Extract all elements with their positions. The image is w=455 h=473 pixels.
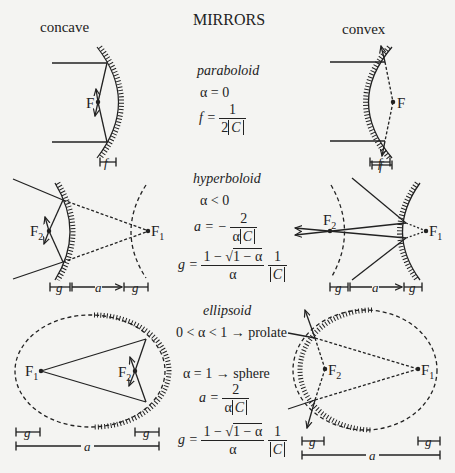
dim-a-ellipsoid-concave: a bbox=[81, 440, 94, 453]
hyperboloid-convex bbox=[295, 165, 428, 287]
dim-g-ellipsoid-convex-left: g bbox=[309, 435, 316, 448]
dim-a-hyperboloid-concave: a bbox=[95, 281, 102, 294]
focus-label-f2-hyperboloid-concave: F2 bbox=[30, 224, 43, 242]
section-title-ellipsoid: ellipsoid bbox=[203, 304, 251, 318]
section-title-hyperboloid: hyperboloid bbox=[193, 172, 261, 186]
hyperboloid-condition: α < 0 bbox=[200, 194, 229, 208]
dim-g-ellipsoid-concave-right: g bbox=[143, 426, 150, 439]
ellipsoid-condition-sphere: α = 1 → sphere bbox=[183, 367, 270, 381]
section-title-paraboloid: paraboloid bbox=[197, 64, 259, 78]
dim-g-hyperboloid-concave-left: g bbox=[56, 281, 63, 294]
focus-label-f2-ellipsoid-convex: F2 bbox=[328, 363, 341, 381]
dim-g-hyperboloid-convex-right: g bbox=[409, 281, 416, 294]
focus-label-paraboloid-convex: F bbox=[397, 96, 405, 111]
ellipsoid-g-formula: g = 1 − √1 − αα 1C bbox=[178, 425, 287, 457]
focus-label-f1-hyperboloid-concave: F1 bbox=[151, 224, 164, 242]
column-label-convex: convex bbox=[342, 22, 385, 37]
column-label-concave: concave bbox=[40, 20, 89, 35]
paraboloid-focal-formula: f = 12C bbox=[199, 103, 246, 135]
paraboloid-condition: α = 0 bbox=[200, 86, 229, 100]
dim-g-ellipsoid-concave-left: g bbox=[24, 426, 31, 439]
paraboloid-convex bbox=[330, 46, 395, 162]
focus-label-f1-ellipsoid-concave: F1 bbox=[25, 364, 38, 382]
ellipsoid-condition-prolate: 0 < α < 1 → prolate bbox=[176, 326, 287, 340]
focus-label-f2-ellipsoid-concave: F2 bbox=[118, 365, 131, 383]
focus-label-f2-hyperboloid-convex: F2 bbox=[323, 213, 336, 231]
focus-label-paraboloid-concave: F bbox=[86, 96, 94, 111]
dim-f-hyperboloid-convex: f bbox=[379, 159, 383, 172]
dim-g-hyperboloid-concave-right: g bbox=[132, 281, 139, 294]
formula-lhs: f = bbox=[199, 110, 216, 125]
hyperboloid-g-formula: g = 1 − √1 − αα 1C bbox=[178, 250, 287, 282]
dim-g-ellipsoid-convex-right: g bbox=[425, 435, 432, 448]
dim-g-hyperboloid-convex-left: g bbox=[335, 281, 342, 294]
focus-label-f1-ellipsoid-convex: F1 bbox=[421, 363, 434, 381]
page-title: MIRRORS bbox=[193, 12, 265, 28]
dim-a-hyperboloid-convex: a bbox=[372, 281, 379, 294]
ellipsoid-a-formula: a = 2αC bbox=[199, 383, 249, 415]
dim-f-paraboloid-concave: f bbox=[104, 156, 108, 169]
hyperboloid-a-formula: a = − 2αC bbox=[194, 212, 257, 244]
dim-a-ellipsoid-convex: a bbox=[366, 449, 379, 462]
focus-label-f1-hyperboloid-convex: F1 bbox=[429, 224, 442, 242]
